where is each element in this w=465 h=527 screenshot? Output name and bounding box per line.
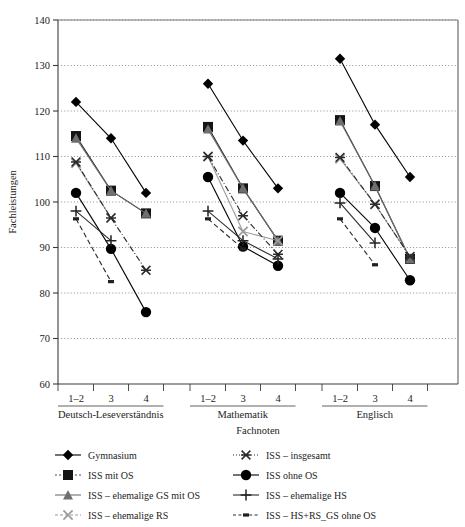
data-point-diamond bbox=[273, 183, 283, 193]
series-line bbox=[76, 138, 111, 190]
legend-label: ISS – ehemalige HS bbox=[266, 490, 347, 501]
x-group-label: Mathematik bbox=[217, 409, 268, 420]
y-tick-label: 70 bbox=[40, 333, 51, 344]
data-point-diamond bbox=[203, 79, 213, 89]
data-point-circle bbox=[141, 307, 151, 317]
series-layer bbox=[71, 53, 416, 317]
data-point-circle bbox=[71, 188, 81, 198]
figure-title bbox=[130, 0, 430, 8]
series-line bbox=[243, 216, 278, 255]
data-point-small-square bbox=[240, 247, 246, 250]
x-tick-label: 3 bbox=[372, 393, 377, 404]
series-line bbox=[111, 218, 146, 270]
data-point-circle bbox=[203, 172, 213, 182]
data-point-asterisk bbox=[106, 214, 116, 223]
series-line bbox=[208, 157, 243, 216]
y-tick-label: 120 bbox=[34, 106, 50, 117]
legend-item[interactable]: ISS – ehemalige RS bbox=[55, 510, 168, 521]
series-line bbox=[208, 219, 243, 249]
legend-item[interactable]: ISS mit OS bbox=[55, 470, 134, 481]
series-line bbox=[243, 141, 278, 189]
data-point-diamond bbox=[141, 188, 151, 198]
y-tick-label: 90 bbox=[40, 242, 51, 253]
y-tick-label: 140 bbox=[34, 15, 50, 26]
chart-svg: 60708090100110120130140Fachleistungen1–2… bbox=[0, 0, 465, 527]
data-point-plus bbox=[241, 490, 252, 501]
data-point-asterisk bbox=[370, 200, 380, 209]
series-line bbox=[208, 129, 243, 188]
series-6 bbox=[71, 198, 381, 265]
series-line bbox=[76, 211, 111, 241]
data-point-diamond bbox=[335, 53, 345, 63]
legend-label: ISS – ehemalige GS mit OS bbox=[88, 490, 200, 501]
y-tick-label: 100 bbox=[34, 197, 50, 208]
data-point-asterisk bbox=[241, 451, 251, 460]
legend-item[interactable]: ISS – HS+RS_GS ohne OS bbox=[233, 510, 376, 521]
series-line bbox=[375, 125, 410, 177]
legend-label: Gymnasium bbox=[88, 450, 137, 461]
legend-label: ISS ohne OS bbox=[266, 470, 318, 481]
series-line bbox=[208, 84, 243, 141]
legend-label: ISS mit OS bbox=[88, 470, 134, 481]
series-7 bbox=[73, 217, 378, 283]
series-4 bbox=[71, 152, 415, 275]
legend-label: ISS – insgesamt bbox=[266, 450, 331, 461]
data-point-asterisk bbox=[203, 152, 213, 161]
y-tick-label: 130 bbox=[34, 60, 50, 71]
data-point-circle bbox=[370, 223, 380, 233]
x-group-label: Englisch bbox=[356, 409, 393, 420]
data-point-asterisk bbox=[238, 211, 248, 220]
x-tick-label: 4 bbox=[407, 393, 413, 404]
data-point-square bbox=[63, 470, 73, 480]
data-point-asterisk bbox=[335, 153, 345, 162]
x-axis-title: Fachnoten bbox=[236, 425, 280, 436]
x-tick-label: 4 bbox=[143, 393, 149, 404]
x-tick-label: 3 bbox=[108, 393, 113, 404]
data-point-small-square bbox=[243, 513, 249, 516]
chart-figure: 60708090100110120130140Fachleistungen1–2… bbox=[0, 0, 465, 527]
x-axis: 1–234Deutsch-Leseverständnis1–234Mathema… bbox=[58, 384, 428, 436]
data-point-asterisk bbox=[71, 158, 81, 167]
legend-label: ISS – HS+RS_GS ohne OS bbox=[266, 510, 376, 521]
series-line bbox=[208, 157, 243, 232]
x-tick-label: 3 bbox=[240, 393, 245, 404]
series-line bbox=[340, 121, 375, 186]
series-line bbox=[111, 249, 146, 312]
series-line bbox=[340, 59, 375, 125]
series-line bbox=[76, 163, 111, 218]
legend-item[interactable]: ISS – ehemalige GS mit OS bbox=[55, 490, 200, 501]
series-line bbox=[76, 102, 111, 138]
data-point-diamond bbox=[405, 172, 415, 182]
legend: GymnasiumISS mit OSISS – ehemalige GS mi… bbox=[55, 450, 376, 521]
data-point-circle bbox=[241, 470, 251, 480]
y-axis-title: Fachleistungen bbox=[7, 169, 18, 233]
x-group-label: Deutsch-Leseverständnis bbox=[58, 409, 164, 420]
data-point-small-square bbox=[73, 217, 79, 220]
x-tick-label: 1–2 bbox=[200, 393, 216, 404]
legend-item[interactable]: Gymnasium bbox=[55, 450, 137, 461]
x-tick-label: 1–2 bbox=[68, 393, 84, 404]
legend-item[interactable]: ISS – insgesamt bbox=[233, 450, 331, 461]
y-tick-label: 60 bbox=[40, 379, 51, 390]
data-point-small-square bbox=[337, 217, 343, 220]
series-line bbox=[111, 138, 146, 193]
data-point-small-square bbox=[205, 217, 211, 220]
y-tick-label: 110 bbox=[35, 151, 50, 162]
data-point-diamond bbox=[370, 119, 380, 129]
series-line bbox=[76, 219, 111, 282]
legend-item[interactable]: ISS ohne OS bbox=[233, 470, 318, 481]
series-line bbox=[208, 211, 243, 241]
data-point-cross-x bbox=[238, 227, 247, 236]
data-point-circle bbox=[335, 188, 345, 198]
series-0 bbox=[71, 53, 415, 198]
data-point-small-square bbox=[108, 280, 114, 283]
y-tick-label: 80 bbox=[40, 288, 51, 299]
legend-item[interactable]: ISS – ehemalige HS bbox=[233, 490, 347, 501]
gridlines bbox=[58, 20, 458, 339]
data-point-diamond bbox=[63, 450, 73, 460]
legend-label: ISS – ehemalige RS bbox=[88, 510, 168, 521]
data-point-asterisk bbox=[141, 266, 151, 275]
x-tick-label: 4 bbox=[275, 393, 281, 404]
data-point-diamond bbox=[238, 135, 248, 145]
series-line bbox=[340, 219, 375, 265]
